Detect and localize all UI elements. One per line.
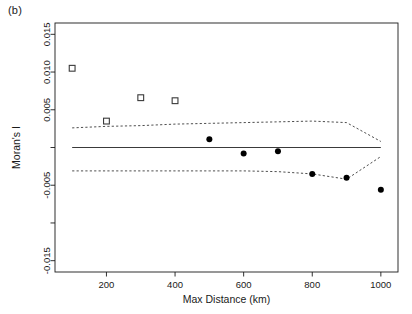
y-axis-tick-label: 0.005 xyxy=(42,98,53,122)
y-axis-tick-label: -0.005 xyxy=(42,172,53,199)
data-point-open-square xyxy=(172,98,178,104)
y-axis-title: Moran's I xyxy=(10,126,22,169)
data-point-open-square xyxy=(69,65,75,71)
data-point-filled-circle xyxy=(344,175,350,181)
data-point-filled-circle xyxy=(241,151,247,157)
figure-panel: (b) 2004006008001000Max Distance (km)0.0… xyxy=(0,0,412,314)
data-point-open-square xyxy=(138,95,144,101)
x-axis-tick-label: 800 xyxy=(304,279,320,290)
x-axis-tick-label: 600 xyxy=(236,279,252,290)
data-point-filled-circle xyxy=(206,136,212,142)
lower-confidence-envelope xyxy=(72,157,381,180)
y-axis-tick-label: 0.010 xyxy=(42,60,53,84)
data-point-filled-circle xyxy=(309,171,315,177)
x-axis-tick-label: 1000 xyxy=(370,279,391,290)
data-point-filled-circle xyxy=(378,187,384,193)
data-point-filled-circle xyxy=(275,148,281,154)
x-axis-tick-label: 400 xyxy=(167,279,183,290)
y-axis-tick-label: 0.015 xyxy=(42,22,53,46)
y-axis-tick-label: -0.015 xyxy=(42,247,53,274)
data-point-open-square xyxy=(104,118,110,124)
moran-correlogram-plot: 2004006008001000Max Distance (km)0.0150.… xyxy=(0,0,412,314)
x-axis-tick-label: 200 xyxy=(99,279,115,290)
upper-confidence-envelope xyxy=(72,121,381,141)
x-axis-title: Max Distance (km) xyxy=(183,293,271,305)
